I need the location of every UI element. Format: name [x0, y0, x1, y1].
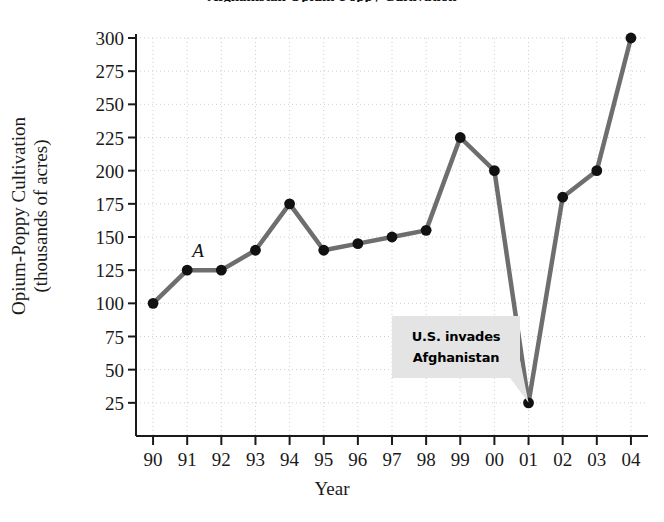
point-label-a: A [192, 240, 204, 262]
annotation-line2: Afghanistan [413, 347, 500, 368]
plot-area [0, 0, 664, 522]
annotation-line1: U.S. invades [412, 326, 501, 347]
opium-poppy-cultivation-chart: Afghanistan Opium-Poppy Cultivation Opiu… [0, 0, 664, 522]
annotation-callout: U.S. invadesAfghanistan [392, 316, 520, 378]
